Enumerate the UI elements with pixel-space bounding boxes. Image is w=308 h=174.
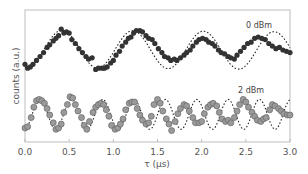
- data-point: [245, 104, 251, 110]
- data-point: [56, 33, 61, 38]
- data-point: [156, 46, 161, 51]
- x-tick-label: 0.0: [18, 147, 33, 157]
- data-point: [67, 30, 72, 35]
- data-point: [238, 49, 243, 54]
- data-point: [117, 49, 122, 54]
- x-tick-label: 2.0: [195, 147, 210, 157]
- data-point: [199, 119, 205, 125]
- data-point: [25, 124, 31, 130]
- data-point: [151, 102, 157, 108]
- data-point: [113, 53, 118, 58]
- x-tick-label: 2.5: [239, 147, 253, 157]
- data-point: [132, 99, 138, 105]
- data-point: [41, 50, 46, 55]
- data-point: [287, 112, 293, 118]
- data-point: [263, 115, 269, 121]
- data-point: [249, 40, 254, 45]
- chart: 0.00.51.01.52.02.53.0 0 dBm 2 dBm τ (μs)…: [0, 0, 308, 174]
- data-point: [152, 41, 157, 46]
- data-point: [123, 107, 129, 113]
- data-point: [160, 108, 166, 114]
- data-point: [241, 45, 246, 50]
- data-point: [120, 44, 125, 49]
- data-point: [166, 121, 172, 127]
- data-point: [216, 109, 222, 115]
- data-point: [140, 29, 145, 34]
- data-point: [72, 102, 78, 108]
- data-point: [263, 37, 268, 42]
- data-point: [30, 62, 35, 67]
- data-point: [287, 50, 292, 55]
- data-point: [169, 128, 175, 134]
- data-point: [190, 44, 195, 49]
- x-tick-label: 3.0: [283, 147, 298, 157]
- data-point: [64, 102, 70, 108]
- data-point: [234, 53, 239, 58]
- data-point: [79, 115, 85, 121]
- data-point: [50, 120, 56, 126]
- data-point: [120, 116, 126, 122]
- x-tick-label: 0.5: [62, 147, 76, 157]
- y-axis-label: counts (a.u.): [11, 48, 21, 105]
- data-point: [31, 104, 37, 110]
- data-point: [75, 108, 81, 114]
- data-point: [37, 54, 42, 59]
- series-label-2dbm: 2 dBm: [238, 86, 264, 95]
- series-label-0dbm: 0 dBm: [246, 21, 272, 30]
- data-point: [234, 108, 240, 114]
- data-point: [44, 106, 50, 112]
- data-point: [61, 109, 67, 115]
- data-point: [146, 120, 152, 126]
- data-point: [47, 42, 52, 47]
- data-point: [105, 64, 110, 69]
- data-point: [237, 102, 243, 108]
- data-point: [90, 55, 95, 60]
- data-point: [70, 95, 76, 101]
- data-point: [69, 37, 74, 42]
- data-point: [73, 41, 78, 46]
- data-point: [148, 113, 154, 119]
- data-point: [34, 58, 39, 63]
- data-point: [86, 119, 92, 125]
- x-tick-label: 1.0: [106, 147, 121, 157]
- x-tick-label: 1.5: [150, 147, 164, 157]
- data-point: [134, 106, 140, 112]
- data-point: [231, 115, 237, 121]
- data-point: [186, 108, 192, 114]
- x-axis-label: τ (μs): [144, 159, 170, 169]
- data-point: [201, 111, 207, 117]
- data-point: [58, 121, 64, 127]
- data-point: [80, 50, 85, 55]
- data-points: [22, 27, 293, 134]
- data-point: [28, 115, 34, 121]
- data-point: [212, 44, 217, 49]
- data-point: [111, 58, 116, 63]
- data-point: [157, 100, 163, 106]
- data-point: [172, 119, 178, 125]
- data-point: [76, 46, 81, 51]
- data-point: [84, 126, 90, 132]
- data-point: [214, 103, 220, 109]
- data-point: [228, 120, 234, 126]
- data-point: [47, 112, 53, 118]
- data-point: [103, 107, 109, 113]
- data-point: [106, 113, 112, 119]
